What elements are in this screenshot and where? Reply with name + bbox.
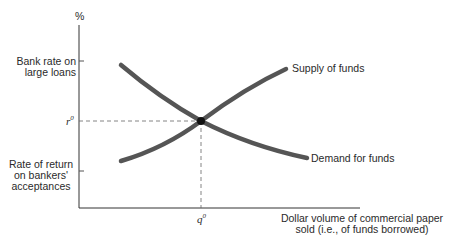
q0-label: q0 <box>197 211 206 225</box>
bank-rate-label: Bank rate on large loans <box>8 56 76 78</box>
bank-rate-line2: large loans <box>8 67 76 78</box>
rate-return-line3: acceptances <box>4 181 78 192</box>
demand-label: Demand for funds <box>311 153 394 164</box>
x-axis-line2: sold (i.e., of funds borrowed) <box>272 224 452 235</box>
x-axis-label: Dollar volume of commercial paper sold (… <box>272 213 452 235</box>
q0-sup: 0 <box>203 212 207 220</box>
rate-return-label: Rate of return on bankers' acceptances <box>4 159 78 192</box>
y-axis-unit-label: % <box>75 11 84 22</box>
equilibrium-point <box>197 117 205 125</box>
supply-label: Supply of funds <box>292 63 364 74</box>
r0-sup: 0 <box>70 114 74 122</box>
r0-label: r0 <box>66 113 74 127</box>
